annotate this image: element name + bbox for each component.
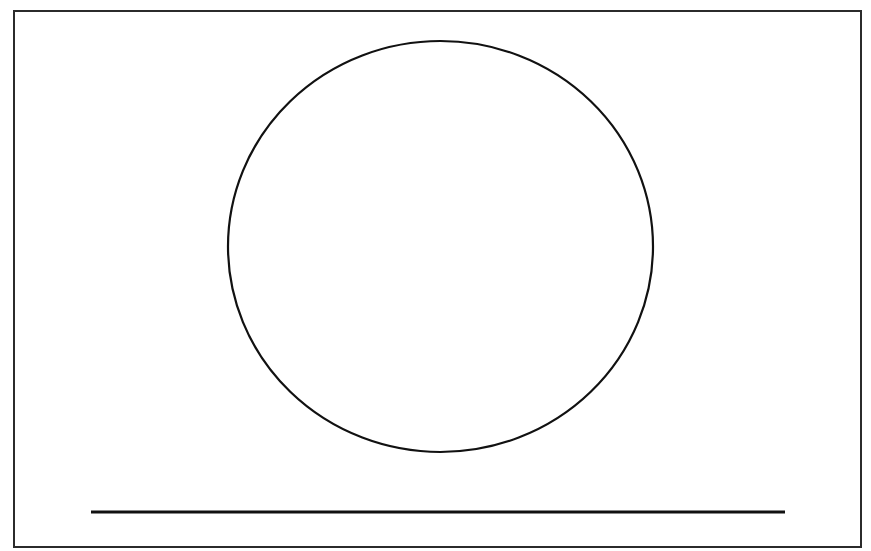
circle-shape: [228, 41, 653, 452]
line-drawing: [0, 0, 871, 551]
drawing-canvas: Line drawing: circle above a horizontal …: [0, 0, 871, 551]
frame-rect: [14, 11, 861, 547]
